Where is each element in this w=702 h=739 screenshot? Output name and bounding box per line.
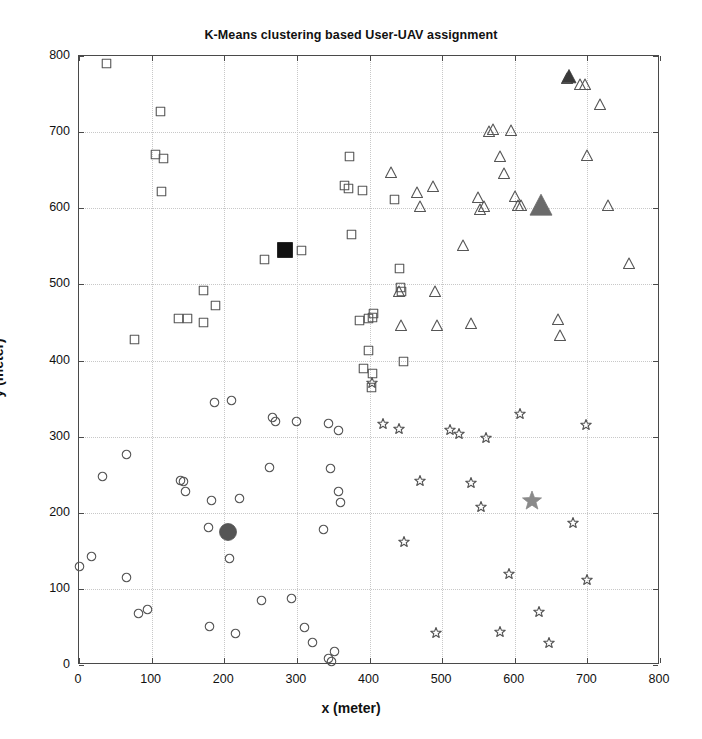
gridline-vertical <box>224 56 225 663</box>
data-point-square-icon <box>153 148 174 169</box>
data-point-triangle-icon <box>404 180 430 206</box>
data-point-circle-icon <box>328 481 349 502</box>
data-point-circle-icon <box>265 411 286 432</box>
data-point-square-icon <box>168 308 189 329</box>
data-point-circle-icon <box>302 632 323 653</box>
data-point-triangle-icon <box>572 72 598 98</box>
data-point-triangle-icon <box>388 313 414 339</box>
x-axis-label: x (meter) <box>0 700 702 716</box>
y-tick-label: 100 <box>30 581 70 595</box>
gridline-vertical <box>515 56 516 663</box>
data-point-square-icon <box>361 377 382 398</box>
data-point-star-icon <box>496 561 522 587</box>
data-point-circle-icon <box>116 444 137 465</box>
data-point-triangle-icon <box>567 72 593 98</box>
data-point-circle-icon <box>320 458 341 479</box>
data-point-triangle-icon <box>458 311 484 337</box>
x-tick-label: 300 <box>285 672 306 686</box>
y-tick-mark <box>653 665 658 666</box>
gridline-horizontal <box>79 132 658 133</box>
data-point-square-icon <box>193 280 214 301</box>
gridline-horizontal <box>79 513 658 514</box>
y-tick-mark <box>79 284 84 285</box>
data-point-square-icon <box>145 144 166 165</box>
y-tick-mark <box>653 132 658 133</box>
x-tick-mark <box>660 56 661 61</box>
y-tick-mark <box>79 208 84 209</box>
y-tick-mark <box>79 56 84 57</box>
data-point-circle-icon <box>92 466 113 487</box>
data-point-star-icon <box>573 412 599 438</box>
y-tick-mark <box>79 513 84 514</box>
data-point-square-icon <box>353 358 374 379</box>
data-point-triangle-icon <box>424 313 450 339</box>
data-point-triangle-icon <box>505 193 531 219</box>
data-point-circle-icon <box>69 556 90 577</box>
data-point-square-icon <box>362 307 383 328</box>
x-tick-label: 800 <box>649 672 670 686</box>
gridline-horizontal <box>79 284 658 285</box>
data-point-star-icon <box>487 619 513 645</box>
data-point-circle-icon <box>262 407 283 428</box>
x-tick-mark <box>224 56 225 61</box>
data-point-circle-icon <box>219 521 240 542</box>
data-point-triangle-icon <box>616 251 642 277</box>
centroid-marker-triangle-icon <box>553 61 585 93</box>
data-point-star-icon <box>386 416 412 442</box>
gridline-vertical <box>370 56 371 663</box>
gridline-horizontal <box>79 361 658 362</box>
data-point-circle-icon <box>328 420 349 441</box>
data-point-star-icon <box>407 468 433 494</box>
data-point-square-icon <box>150 101 171 122</box>
data-point-square-icon <box>334 175 355 196</box>
gridline-vertical <box>442 56 443 663</box>
figure-container: K-Means clustering based User-UAV assign… <box>0 0 702 739</box>
data-point-circle-icon <box>137 599 158 620</box>
data-point-square-icon <box>274 240 295 261</box>
y-tick-label: 800 <box>30 48 70 62</box>
x-tick-mark <box>660 658 661 663</box>
data-point-square-icon <box>389 258 410 279</box>
data-point-triangle-icon <box>528 193 554 219</box>
x-tick-label: 500 <box>431 672 452 686</box>
data-point-triangle-icon <box>480 117 506 143</box>
x-tick-label: 100 <box>140 672 161 686</box>
y-tick-mark <box>653 361 658 362</box>
data-point-circle-icon <box>225 623 246 644</box>
gridline-horizontal <box>79 208 658 209</box>
data-point-triangle-icon <box>547 323 573 349</box>
data-point-star-icon <box>507 401 533 427</box>
data-point-star-icon <box>458 470 484 496</box>
data-point-square-icon <box>341 224 362 245</box>
data-point-circle-icon <box>170 470 191 491</box>
gridline-horizontal <box>79 589 658 590</box>
data-point-square-icon <box>363 303 384 324</box>
x-tick-mark <box>297 658 298 663</box>
x-tick-mark <box>79 658 80 663</box>
y-tick-mark <box>653 284 658 285</box>
gridline-vertical <box>152 56 153 663</box>
y-tick-label: 700 <box>30 124 70 138</box>
data-point-star-icon <box>519 488 545 514</box>
x-tick-mark <box>587 56 588 61</box>
y-tick-mark <box>79 589 84 590</box>
data-point-circle-icon <box>251 590 272 611</box>
data-point-square-icon <box>193 312 214 333</box>
x-tick-mark <box>442 658 443 663</box>
data-point-circle-icon <box>318 648 339 669</box>
y-tick-mark <box>79 361 84 362</box>
data-point-circle-icon <box>116 567 137 588</box>
y-tick-label: 600 <box>30 200 70 214</box>
x-tick-mark <box>587 658 588 663</box>
data-point-star-icon <box>560 510 586 536</box>
data-point-triangle-icon <box>378 160 404 186</box>
data-point-star-icon <box>359 370 385 396</box>
gridline-vertical <box>297 56 298 663</box>
data-point-circle-icon <box>198 517 219 538</box>
data-point-square-icon <box>124 329 145 350</box>
data-point-circle-icon <box>199 616 220 637</box>
y-tick-mark <box>653 437 658 438</box>
data-point-star-icon <box>446 421 472 447</box>
data-point-circle-icon <box>128 603 149 624</box>
data-point-square-icon <box>151 181 172 202</box>
